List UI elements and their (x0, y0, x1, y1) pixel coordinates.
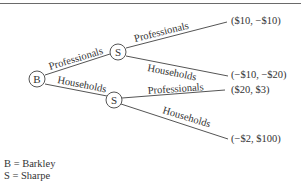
node-lower-label: S (111, 94, 117, 106)
edge-label-lower-top: Professionals (147, 81, 204, 96)
legend-item-sharpe: S = Sharpe (4, 170, 55, 182)
node-lower: S (106, 92, 122, 108)
node-upper-label: S (115, 46, 121, 58)
payoff-1: ($10, −$10) (231, 15, 281, 26)
node-root: B (29, 71, 45, 87)
payoff-3: ($20, $3) (231, 84, 270, 95)
legend: B = Barkley S = Sharpe (4, 158, 55, 182)
node-root-label: B (33, 73, 40, 85)
node-upper: S (110, 44, 126, 60)
legend-item-barkley: B = Barkley (4, 158, 55, 170)
edge-label-upper-top: Professionals (133, 20, 190, 44)
payoff-2: (−$10, −$20) (231, 69, 287, 80)
payoff-4: (−$2, $100) (231, 133, 281, 144)
